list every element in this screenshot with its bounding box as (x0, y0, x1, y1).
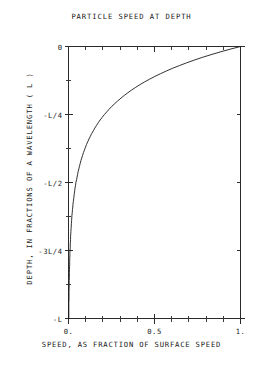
x-tick-label: 0.5 (147, 327, 161, 336)
chart-figure: PARTICLE SPEED AT DEPTH 0-L/4-L/2-3L/4-L… (0, 0, 263, 374)
ticks-group (65, 47, 241, 324)
axes-group (69, 47, 245, 319)
x-tick-label: 0. (64, 327, 74, 336)
y-tick-label: -L (21, 314, 63, 323)
x-tick-label: 1. (236, 327, 246, 336)
x-axis-label: SPEED, AS FRACTION OF SURFACE SPEED (0, 340, 263, 349)
y-axis-label: DEPTH, IN FRACTIONS OF A WAVELENGTH ( L … (25, 49, 34, 309)
speed-depth-curve (69, 47, 241, 319)
